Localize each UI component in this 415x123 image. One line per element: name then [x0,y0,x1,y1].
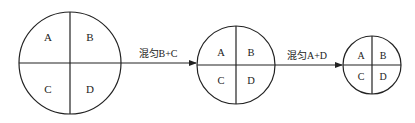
stage-3-quadrant-a: A [357,50,365,61]
stage-2-quadrant-c: C [217,75,224,86]
stage-2-quadrant-d: D [247,75,255,86]
stage-3-circle: A B C D [343,36,401,94]
stage-3-quadrant-b: B [380,50,387,61]
stage-2-circle: A B C D [197,26,275,104]
stage-3-quadrant-c: C [358,71,365,82]
arrow-1: 混匀B+C [121,48,196,63]
arrow-2: 混匀A+D [275,50,342,65]
stage-1-quadrant-d: D [86,83,94,95]
stage-1-quadrant-b: B [86,31,93,43]
stage-1-quadrant-c: C [44,83,51,95]
stage-2-quadrant-b: B [247,47,254,58]
stage-2-quadrant-a: A [217,47,225,58]
stage-3-quadrant-d: D [379,71,386,82]
stage-1-quadrant-a: A [44,31,52,43]
mixing-diagram: A B C D 混匀B+C A B C D 混匀A+D A B C D [0,0,415,123]
arrow-2-label: 混匀A+D [287,50,327,61]
arrow-1-label: 混匀B+C [139,48,178,59]
stage-1-circle: A B C D [19,12,121,114]
